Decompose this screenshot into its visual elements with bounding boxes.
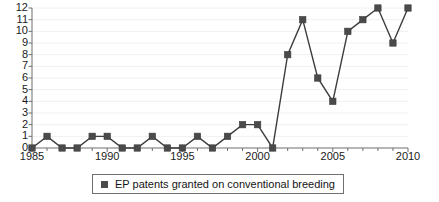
chart-legend: EP patents granted on conventional breed… xyxy=(92,174,344,194)
y-tick-label: 7 xyxy=(2,60,28,71)
y-axis-tick-labels: 0123456789101112 xyxy=(0,8,28,148)
data-point-marker xyxy=(224,133,230,139)
data-point-marker xyxy=(44,133,50,139)
x-axis-tick-labels: 198519901995200020052010 xyxy=(32,150,408,166)
y-tick-label: 6 xyxy=(2,72,28,83)
data-point-marker xyxy=(254,121,260,127)
y-tick-label: 4 xyxy=(2,95,28,106)
data-point-marker xyxy=(315,75,321,81)
x-tick-label: 2010 xyxy=(396,150,420,163)
data-point-marker xyxy=(405,5,411,11)
x-tick-label: 1985 xyxy=(20,150,44,163)
line-chart: 0123456789101112 19851990199520002005201… xyxy=(0,0,439,202)
data-point-marker xyxy=(104,133,110,139)
data-series xyxy=(32,8,408,148)
series-line-0 xyxy=(32,8,408,148)
legend-label: EP patents granted on conventional breed… xyxy=(115,178,335,190)
y-tick-label: 1 xyxy=(2,130,28,141)
plot-area xyxy=(32,8,408,148)
x-tick-label: 2005 xyxy=(321,150,345,163)
y-tick-label: 12 xyxy=(2,2,28,13)
data-point-marker xyxy=(149,133,155,139)
y-tick-label: 11 xyxy=(2,14,28,25)
y-tick-label: 2 xyxy=(2,119,28,130)
data-point-marker xyxy=(360,16,366,22)
y-tick-label: 5 xyxy=(2,84,28,95)
data-point-marker xyxy=(300,16,306,22)
x-tick-label: 1990 xyxy=(95,150,119,163)
y-tick-label: 8 xyxy=(2,49,28,60)
legend-swatch-icon xyxy=(101,181,108,188)
data-point-marker xyxy=(194,133,200,139)
data-point-marker xyxy=(375,5,381,11)
data-point-marker xyxy=(89,133,95,139)
y-tick-label: 3 xyxy=(2,107,28,118)
data-point-marker xyxy=(345,28,351,34)
x-tick-label: 1995 xyxy=(170,150,194,163)
x-tick-label: 2000 xyxy=(245,150,269,163)
y-tick-label: 10 xyxy=(2,25,28,36)
data-point-marker xyxy=(284,51,290,57)
y-tick-label: 9 xyxy=(2,37,28,48)
data-point-marker xyxy=(239,121,245,127)
data-point-marker xyxy=(330,98,336,104)
data-point-marker xyxy=(390,40,396,46)
